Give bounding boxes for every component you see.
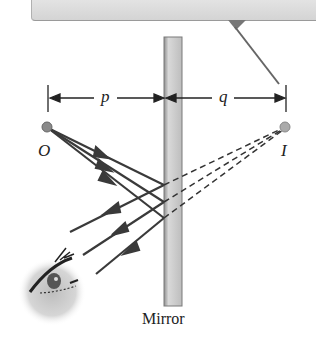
label-object: O	[38, 142, 50, 159]
mirror	[164, 37, 182, 306]
flat-mirror-diagram	[0, 0, 316, 339]
image-point	[280, 122, 290, 132]
object-point	[42, 122, 52, 132]
eye-icon	[18, 248, 86, 326]
label-p: p	[101, 88, 110, 105]
incident-rays	[48, 128, 164, 218]
label-q: q	[219, 88, 228, 105]
reflected-rays	[70, 185, 164, 274]
pointer-line	[228, 20, 279, 84]
label-mirror: Mirror	[142, 311, 185, 327]
label-image: I	[281, 142, 287, 159]
